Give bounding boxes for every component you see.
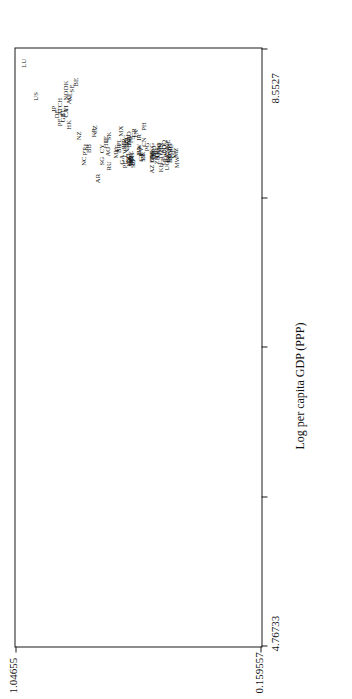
x-axis-title: Log per capita GDP (PPP) [292,322,307,449]
data-point-label: RU [105,161,112,170]
data-point-label: BB [86,143,93,152]
data-point-label: US [33,92,40,101]
data-point-label: AR [95,173,102,182]
data-point-label: NL [67,91,74,100]
data-point-label: AZ [148,164,155,173]
data-point-label: FI [63,105,70,111]
y-axis-tick [260,646,261,652]
data-point-label: SZ [129,159,136,167]
chart-canvas: LUUSJPDEATCHGBITCAFIAUNONLSEDKBEPFHKNZSI… [0,0,352,699]
data-point-label: MW [174,156,181,168]
data-point-label: SR [140,153,147,161]
x-axis-tick [261,496,267,497]
data-point-label: BE [73,77,80,86]
data-point-label: NZ [76,131,83,140]
y-axis-tick [15,646,16,652]
data-point-label: LU [21,58,28,67]
data-point-label: DK [63,80,70,90]
plot-area: LUUSJPDEATCHGBITCAFIAUNONLSEDKBEPFHKNZSI… [14,47,262,647]
y-axis-max-tick-label: 1.04655 [6,657,18,693]
data-point-label: HK [65,119,72,129]
x-axis-max-tick-label: 8.5527 [268,73,280,103]
data-point-label: NC [81,156,88,165]
data-point-label: SK [106,131,113,140]
x-axis-min-tick-label: 4.76733 [268,615,280,651]
x-axis-tick [261,48,267,49]
x-axis-tick [261,197,267,198]
x-axis-tick [261,347,267,348]
scatter-figure: LUUSJPDEATCHGBITCAFIAUNONLSEDKBEPFHKNZSI… [0,0,352,699]
y-axis-min-tick-label: 0.159557 [252,652,264,693]
data-point-label: PH [141,122,148,131]
data-point-label: AG [104,146,111,156]
data-point-label: KR [90,127,97,136]
data-point-label: PF [56,118,63,126]
x-axis-tick [261,645,267,646]
